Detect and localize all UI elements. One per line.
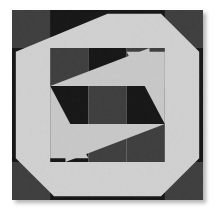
quilt-block-image xyxy=(12,10,203,200)
quilt-block-graphic xyxy=(12,10,203,200)
screenshot-canvas xyxy=(0,0,214,211)
fabric-texture-overlay xyxy=(12,10,203,200)
